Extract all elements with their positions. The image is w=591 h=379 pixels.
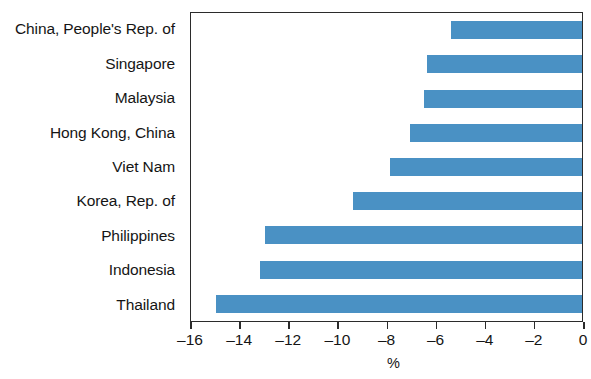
bars-layer: [191, 13, 582, 321]
x-tick-label: 0: [579, 331, 588, 349]
bar-row: [191, 287, 582, 321]
category-label: Thailand: [0, 288, 184, 322]
x-tick-label: –8: [378, 331, 395, 349]
x-tick-mark: [239, 322, 241, 329]
bar: [427, 55, 583, 73]
x-tick-label: –4: [476, 331, 493, 349]
bar-row: [191, 150, 582, 184]
x-tick-mark: [190, 322, 192, 329]
bar: [216, 295, 583, 313]
bar: [451, 21, 583, 39]
bar: [265, 226, 583, 244]
bar-row: [191, 253, 582, 287]
x-axis-title: %: [0, 355, 591, 371]
x-tick-mark: [387, 322, 389, 329]
x-tick-label: –6: [427, 331, 444, 349]
x-tick-mark: [583, 322, 585, 329]
x-tick-mark: [288, 322, 290, 329]
bar-row: [191, 116, 582, 150]
x-tick-mark: [485, 322, 487, 329]
category-axis: China, People's Rep. of Singapore Malays…: [0, 12, 184, 322]
bar: [424, 90, 583, 108]
bar: [353, 192, 583, 210]
category-label: Malaysia: [0, 81, 184, 115]
x-tick-label: –12: [275, 331, 301, 349]
category-label: Korea, Rep. of: [0, 184, 184, 218]
category-label: Singapore: [0, 46, 184, 80]
bar-row: [191, 218, 582, 252]
x-tick-label: –14: [226, 331, 252, 349]
x-axis-tick-labels: –16–14–12–10–8–6–4–20: [140, 331, 591, 355]
bar: [390, 158, 583, 176]
x-tick-label: –2: [525, 331, 542, 349]
bar-row: [191, 13, 582, 47]
bar-row: [191, 47, 582, 81]
bar: [260, 261, 583, 279]
x-tick-mark: [436, 322, 438, 329]
category-label: Philippines: [0, 219, 184, 253]
category-label: Indonesia: [0, 253, 184, 287]
bar-row: [191, 184, 582, 218]
category-label: Hong Kong, China: [0, 115, 184, 149]
x-tick-mark: [337, 322, 339, 329]
x-tick-mark: [534, 322, 536, 329]
category-label: Viet Nam: [0, 150, 184, 184]
plot-area: [190, 12, 583, 322]
bar-chart: China, People's Rep. of Singapore Malays…: [0, 0, 591, 379]
category-label: China, People's Rep. of: [0, 12, 184, 46]
x-axis-title-text: %: [387, 355, 400, 371]
x-tick-label: –16: [177, 331, 203, 349]
bar: [410, 124, 583, 142]
x-tick-label: –10: [324, 331, 350, 349]
bar-row: [191, 81, 582, 115]
